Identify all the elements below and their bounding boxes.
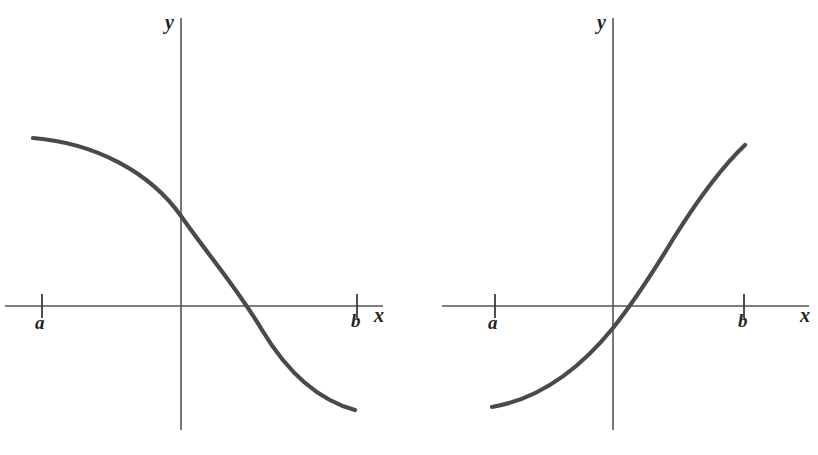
y-axis-label: y [165,12,174,32]
plot-svg-left [0,0,409,455]
plot-panel-left: y x a b [0,0,409,455]
figure-container: y x a b y x a b [0,0,818,455]
function-curve-decreasing [33,138,355,410]
tick-label-b: b [738,311,748,330]
tick-label-a: a [35,313,45,332]
tick-label-b: b [351,311,361,330]
x-axis-label: x [800,305,810,325]
plot-panel-right: y x a b [409,0,818,455]
function-curve-increasing [492,145,745,407]
y-axis-label: y [597,12,606,32]
plot-svg-right [409,0,818,455]
x-axis-label: x [374,305,384,325]
tick-label-a: a [488,313,498,332]
